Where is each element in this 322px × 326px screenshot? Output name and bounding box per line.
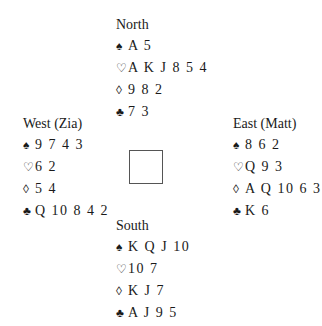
cards: Q 9 3 [245,159,284,174]
clubs-holding: ♣K 6 [233,200,321,222]
diamond-icon: ◊ [116,281,128,302]
diamond-icon: ◊ [233,179,245,200]
clubs-holding: ♣A J 9 5 [116,302,190,324]
diamond-icon: ◊ [23,179,35,200]
clubs-holding: ♣Q 10 8 4 2 [23,200,109,222]
cards: 7 3 [128,104,150,119]
spades-holding: ♠K Q J 10 [116,236,190,258]
diamonds-holding: ◊5 4 [23,178,109,200]
hand-north: North ♠A 5 ♡A K J 8 5 4 ◊9 8 2 ♣7 3 [116,14,208,123]
player-name: North [116,14,208,35]
player-name: South [116,215,190,236]
cards: K 6 [245,203,270,218]
cards: 10 7 [128,261,159,276]
heart-icon: ♡ [116,259,128,280]
diamonds-holding: ◊A Q 10 6 3 [233,178,321,200]
cards: 8 6 2 [245,137,281,152]
club-icon: ♣ [116,102,128,123]
cards: K J 7 [128,283,165,298]
cards: A K J 8 5 4 [128,60,208,75]
cards: A 5 [128,38,152,53]
diamonds-holding: ◊9 8 2 [116,79,208,101]
spade-icon: ♠ [116,237,128,258]
hearts-holding: ♡10 7 [116,258,190,280]
cards: 6 2 [35,159,57,174]
player-name: West (Zia) [23,113,109,134]
club-icon: ♣ [233,201,245,222]
table-center-box [129,150,163,184]
spade-icon: ♠ [23,135,35,156]
cards: A J 9 5 [128,305,178,320]
hearts-holding: ♡6 2 [23,156,109,178]
heart-icon: ♡ [23,157,35,178]
hand-west: West (Zia) ♠9 7 4 3 ♡6 2 ◊5 4 ♣Q 10 8 4 … [23,113,109,222]
spade-icon: ♠ [116,36,128,57]
cards: A Q 10 6 3 [245,181,321,196]
cards: Q 10 8 4 2 [35,203,109,218]
diamond-icon: ◊ [116,80,128,101]
hearts-holding: ♡A K J 8 5 4 [116,57,208,79]
club-icon: ♣ [23,201,35,222]
clubs-holding: ♣7 3 [116,101,208,123]
spades-holding: ♠A 5 [116,35,208,57]
hand-east: East (Matt) ♠8 6 2 ♡Q 9 3 ◊A Q 10 6 3 ♣K… [233,113,321,222]
spades-holding: ♠8 6 2 [233,134,321,156]
heart-icon: ♡ [116,58,128,79]
player-name: East (Matt) [233,113,321,134]
cards: K Q J 10 [128,239,190,254]
spade-icon: ♠ [233,135,245,156]
spades-holding: ♠9 7 4 3 [23,134,109,156]
hearts-holding: ♡Q 9 3 [233,156,321,178]
cards: 5 4 [35,181,57,196]
club-icon: ♣ [116,303,128,324]
cards: 9 7 4 3 [35,137,84,152]
diamonds-holding: ◊K J 7 [116,280,190,302]
cards: 9 8 2 [128,82,164,97]
heart-icon: ♡ [233,157,245,178]
hand-south: South ♠K Q J 10 ♡10 7 ◊K J 7 ♣A J 9 5 [116,215,190,324]
